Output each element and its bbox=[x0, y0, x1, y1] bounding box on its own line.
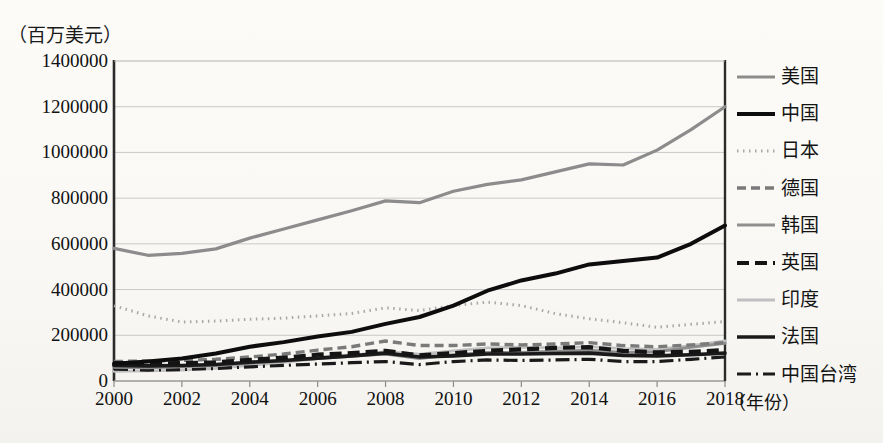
legend-line-swatch bbox=[736, 293, 776, 307]
legend-line-swatch bbox=[736, 70, 776, 84]
legend-item[interactable]: 英国 bbox=[736, 244, 883, 281]
legend-item-label: 印度 bbox=[781, 290, 819, 309]
legend-line-swatch bbox=[736, 256, 776, 270]
legend-line-swatch bbox=[736, 330, 776, 344]
x-axis-tick-label: 2014 bbox=[570, 388, 608, 410]
line-chart: （百万美元） 020000040000060000080000010000001… bbox=[0, 0, 883, 443]
x-axis-tick-label: 2016 bbox=[638, 388, 676, 410]
legend-item-label: 英国 bbox=[781, 253, 819, 272]
legend-item-label: 德国 bbox=[781, 179, 819, 198]
legend-line-swatch bbox=[736, 181, 776, 195]
legend-item-label: 韩国 bbox=[781, 216, 819, 235]
gridlines bbox=[114, 107, 725, 336]
legend-item[interactable]: 美国 bbox=[736, 58, 883, 95]
legend-item[interactable]: 德国 bbox=[736, 170, 883, 207]
x-axis-tick-label: 2008 bbox=[367, 388, 405, 410]
x-axis-tick-marks bbox=[114, 381, 725, 387]
x-axis-tick-label: 2004 bbox=[231, 388, 269, 410]
x-axis-tick-label: 2006 bbox=[299, 388, 337, 410]
legend-item[interactable]: 日本 bbox=[736, 132, 883, 169]
legend-line-swatch bbox=[736, 144, 776, 158]
legend-line-swatch bbox=[736, 218, 776, 232]
series-line bbox=[114, 107, 725, 256]
series-line bbox=[114, 302, 725, 327]
x-axis-tick-label: 2012 bbox=[502, 388, 540, 410]
legend-line-swatch bbox=[736, 367, 776, 381]
x-axis-tick-label: 2000 bbox=[95, 388, 133, 410]
chart-legend: 美国中国日本德国韩国英国印度法国中国台湾 bbox=[736, 58, 883, 393]
legend-item-label: 法国 bbox=[781, 327, 819, 346]
legend-item-label: 中国台湾 bbox=[781, 365, 857, 384]
legend-item[interactable]: 韩国 bbox=[736, 207, 883, 244]
legend-item[interactable]: 中国 bbox=[736, 95, 883, 132]
x-axis-tick-label: 2010 bbox=[434, 388, 472, 410]
legend-item-label: 中国 bbox=[781, 104, 819, 123]
legend-item-label: 美国 bbox=[781, 67, 819, 86]
legend-item[interactable]: 中国台湾 bbox=[736, 356, 883, 393]
legend-item-label: 日本 bbox=[781, 141, 819, 160]
series-line bbox=[114, 226, 725, 364]
legend-item[interactable]: 法国 bbox=[736, 318, 883, 355]
x-axis-tick-label: 2002 bbox=[163, 388, 201, 410]
legend-line-swatch bbox=[736, 107, 776, 121]
data-series bbox=[114, 107, 725, 372]
legend-item[interactable]: 印度 bbox=[736, 281, 883, 318]
